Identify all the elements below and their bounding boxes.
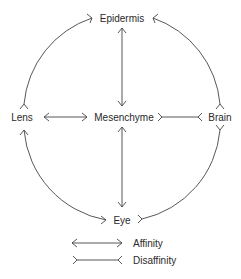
disaffinity-mark-brain-bottom [216,125,224,130]
edge-lens-mesenchyme [44,113,87,121]
node-lens: Lens [11,112,33,123]
edge-brain-eye [142,130,220,219]
legend-disaffinity-symbol [73,256,122,264]
legend: Affinity Disaffinity [72,238,176,266]
disaffinity-mark-lens-top [20,104,28,109]
tissue-affinity-diagram: Epidermis Lens Mesenchyme Brain Eye Affi… [0,0,241,279]
edge-mesenchyme-brain [158,113,202,121]
node-eye: Eye [113,215,131,226]
legend-affinity-label: Affinity [133,238,163,249]
node-mesenchyme: Mesenchyme [94,112,154,123]
legend-affinity-symbol [72,239,122,247]
edge-epidermis-brain [153,18,220,104]
edge-lens-eye [24,130,106,220]
node-brain: Brain [208,112,231,123]
edge-mesenchyme-eye [118,127,126,207]
legend-disaffinity-label: Disaffinity [133,255,176,266]
disaffinity-mark-eye-right [138,215,142,223]
node-epidermis: Epidermis [100,13,144,24]
edge-epidermis-lens [24,18,92,104]
disaffinity-mark-brain-top [216,104,224,109]
edge-epidermis-mesenchyme [118,28,126,106]
